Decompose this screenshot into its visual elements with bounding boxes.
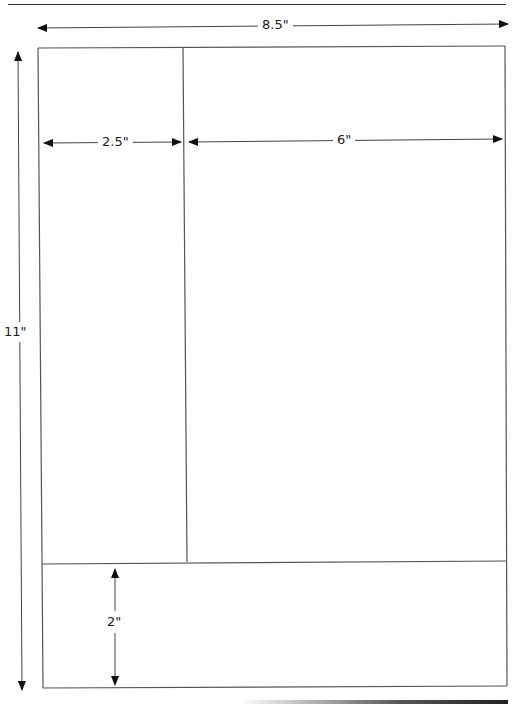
footer-divider (42, 561, 506, 564)
left-column-width-label: 2.5" (98, 134, 133, 150)
page-height-label: 11" (3, 322, 28, 342)
column-divider (183, 48, 187, 562)
footer-height-label: 2" (105, 611, 123, 633)
main-column-width-label: 6" (333, 132, 355, 148)
page-height-arrow (18, 52, 22, 690)
bottom-edge-bar (240, 700, 508, 704)
page-width-label: 8.5" (258, 17, 293, 33)
layout-diagram (0, 0, 514, 704)
